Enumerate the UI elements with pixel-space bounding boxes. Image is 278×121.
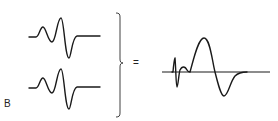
summed-waveform: [172, 38, 247, 96]
equals-sign: =: [133, 57, 139, 68]
waveform-2: [29, 69, 100, 109]
waveform-1: [29, 18, 100, 58]
figure-canvas: [0, 0, 278, 121]
panel-label: B: [4, 98, 11, 109]
curly-brace: [116, 13, 123, 117]
